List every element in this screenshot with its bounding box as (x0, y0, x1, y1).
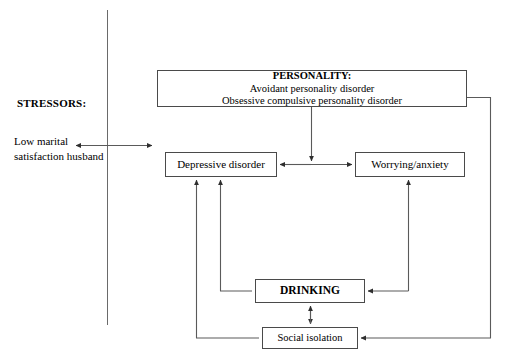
node-personality: PERSONALITY: Avoidant personality disord… (157, 70, 467, 107)
low-marital-satisfaction-label: Low marital satisfaction husband (14, 134, 104, 164)
node-depressive-disorder: Depressive disorder (165, 152, 277, 177)
node-drinking-label: DRINKING (280, 284, 340, 298)
diagram-connectors-layer (0, 0, 507, 362)
edge-personality-to-social (361, 98, 491, 339)
node-personality-heading: PERSONALITY: (273, 70, 351, 82)
node-worrying-anxiety-label: Worrying/anxiety (371, 158, 448, 171)
node-depressive-disorder-label: Depressive disorder (177, 158, 265, 171)
edge-social-to-depressive (197, 180, 260, 338)
node-drinking: DRINKING (255, 279, 365, 303)
stressors-label: STRESSORS: (17, 97, 86, 109)
edge-drinking-to-depressive (221, 180, 253, 291)
low-marital-line-1: Low marital (14, 134, 104, 149)
node-social-isolation: Social isolation (262, 327, 358, 349)
node-personality-line-2: Avoidant personality disorder (250, 83, 375, 95)
node-social-isolation-label: Social isolation (277, 332, 342, 344)
low-marital-line-2: satisfaction husband (14, 149, 104, 164)
diagram-canvas: STRESSORS: Low marital satisfaction husb… (0, 0, 507, 362)
node-personality-line-3: Obsessive compulsive personality disorde… (222, 95, 402, 107)
node-worrying-anxiety: Worrying/anxiety (355, 152, 465, 177)
